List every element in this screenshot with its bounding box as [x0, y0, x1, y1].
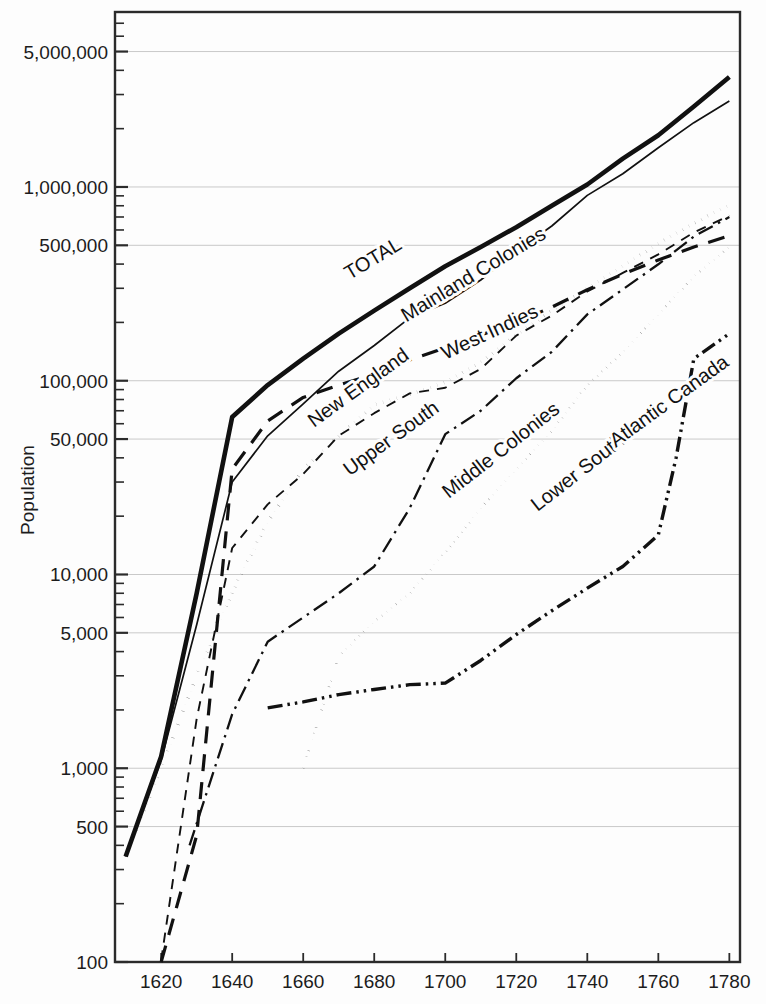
y-tick-label: 5,000 [60, 623, 108, 644]
x-tick-label: 1620 [140, 971, 182, 992]
series-label-group-total: TOTALTOTAL [340, 233, 405, 284]
series-label-group-upper-south: Upper SouthUpper South [339, 396, 443, 480]
x-axis-tick-labels: 162016401660168017001720174017601780 [140, 971, 750, 992]
x-tick-label: 1760 [637, 971, 679, 992]
y-tick-label: 1,000,000 [23, 177, 108, 198]
series-label-group-west-indies: West IndiesWest Indies [438, 300, 542, 364]
series-label-text: TOTAL [340, 233, 405, 284]
x-tick-label: 1780 [708, 971, 750, 992]
y-axis-ticks [115, 12, 128, 962]
series-label-text: Atlantic Canada [605, 350, 733, 451]
series-lines [126, 77, 730, 962]
series-line-total [126, 77, 730, 857]
x-tick-label: 1680 [353, 971, 395, 992]
x-tick-label: 1640 [211, 971, 253, 992]
y-tick-label: 5,000,000 [23, 42, 108, 63]
x-tick-label: 1740 [566, 971, 608, 992]
y-tick-label: 100,000 [39, 371, 108, 392]
series-label-group-atlantic-canada: Atlantic CanadaAtlantic Canada [605, 350, 733, 451]
plot-frame [115, 12, 740, 962]
series-label-text: Upper South [339, 396, 443, 480]
series-line-middle-colonies [190, 217, 730, 845]
series-line-mainland-colonies [126, 101, 730, 857]
series-label-text: West Indies [438, 300, 542, 364]
y-axis-title: Population [17, 445, 38, 535]
series-inline-labels: TOTALTOTALMainland ColoniesMainland Colo… [303, 222, 733, 515]
y-tick-label: 500,000 [39, 235, 108, 256]
y-tick-label: 1,000 [60, 758, 108, 779]
y-tick-label: 10,000 [50, 564, 108, 585]
y-tick-label: 50,000 [50, 429, 108, 450]
x-tick-label: 1700 [424, 971, 466, 992]
x-axis-ticks [161, 953, 729, 962]
population-log-chart: 1005001,0005,00010,00050,000100,000500,0… [0, 0, 766, 1004]
series-line-new-england [161, 216, 729, 961]
x-tick-label: 1660 [282, 971, 324, 992]
x-tick-label: 1720 [495, 971, 537, 992]
chart-page: 1005001,0005,00010,00050,000100,000500,0… [0, 0, 766, 1004]
y-tick-label: 100 [76, 952, 108, 973]
y-tick-label: 500 [76, 817, 108, 838]
